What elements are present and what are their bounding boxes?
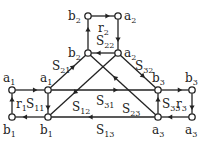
arrow-icon [96,50,101,55]
node-a2_top [115,13,121,19]
node-b2 [85,50,91,56]
node-label: a2 [124,9,136,25]
edge-label: S32 [135,59,153,75]
edge-label: S13 [96,123,114,139]
node-a2 [115,50,121,56]
edge-label: S23 [122,102,140,118]
arrow-icon [189,106,194,111]
arrow-icon [9,97,14,102]
arrow-icon [33,87,38,92]
node-b3_out [189,87,195,93]
node-b2_top [85,13,91,19]
arrow-icon [23,114,28,119]
labels: r1S11S21S31S12S22S32r2S23S13S33r3a1b1a1b… [3,9,198,139]
node-label: a1 [40,71,52,87]
node-label: b1 [3,123,16,139]
signal-flow-graph: r1S11S21S31S12S22S32r2S23S13S33r3a1b1a1b… [0,0,203,141]
node-label: a3 [152,123,164,139]
node-b3 [155,87,161,93]
node-a1_out [9,87,15,93]
edge-label: r3 [176,97,187,113]
node-label: b3 [185,71,198,87]
arrow-icon [155,97,160,102]
edge-label: S31 [96,94,114,110]
arrow-icon [178,87,183,92]
node-label: b2 [68,9,81,25]
node-b1_out [9,114,15,120]
node-label: a1 [3,71,15,87]
node-label: b1 [40,123,53,139]
edge-label: S12 [72,100,90,116]
node-label: b2 [68,46,81,62]
arrow-icon [115,38,120,43]
node-a3_out [189,114,195,120]
node-a1 [45,87,51,93]
arrow-icon [45,106,50,111]
arrow-icon [85,27,90,32]
arrow-icon [168,114,173,119]
node-b1 [45,114,51,120]
arrow-icon [113,87,118,92]
node-label: b3 [152,71,165,87]
node-a3 [155,114,161,120]
edge-label: r2 [98,21,109,37]
node-label: a3 [185,123,197,139]
node-label: a2 [124,46,136,62]
edge-label: S21 [52,59,70,75]
arrow-icon [105,13,110,18]
edge-label: S11 [26,97,44,113]
